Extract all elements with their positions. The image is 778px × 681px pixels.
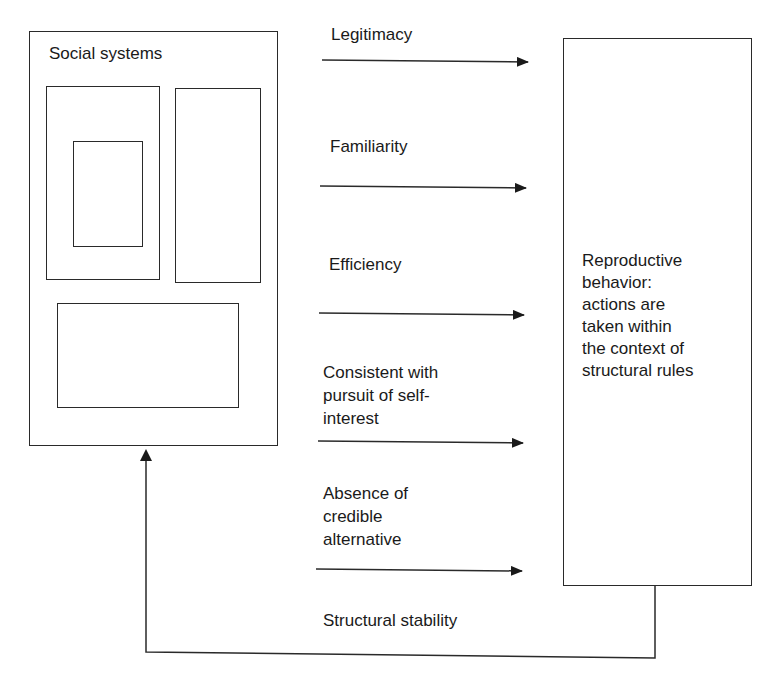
arrow-legitimacy: [322, 60, 528, 62]
feedback-structural-stability: [146, 460, 655, 658]
arrow-efficiency: [319, 313, 524, 315]
arrow-familiarity: [320, 186, 526, 188]
arrow-no-alternative: [316, 569, 522, 571]
feedback-arrowhead-icon: [140, 449, 152, 461]
connector-lines: [0, 0, 778, 681]
arrow-self-interest: [318, 441, 523, 443]
